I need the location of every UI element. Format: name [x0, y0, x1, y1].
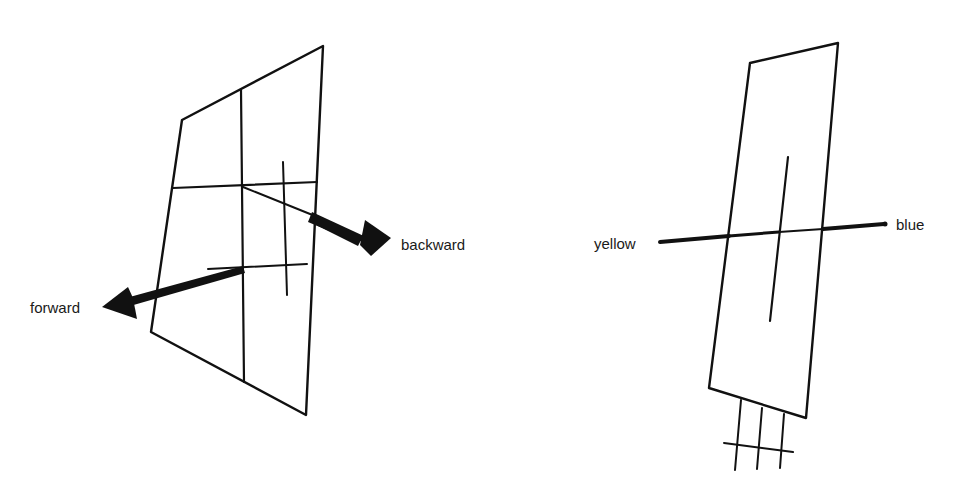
backward-arrow-shaft-thin: [243, 187, 315, 216]
yellow-label: yellow: [594, 236, 636, 251]
left-plane-outline: [151, 46, 323, 415]
right-figure: [660, 43, 888, 470]
axis-inner-thin: [779, 229, 823, 232]
axis-inner-thick: [729, 232, 779, 236]
blue-label: blue: [896, 217, 924, 232]
diagram-canvas: [0, 0, 958, 496]
backward-arrow: [308, 212, 391, 256]
left-cross-horizontal: [208, 264, 307, 269]
backward-label: backward: [401, 237, 465, 252]
forward-arrow: [102, 266, 245, 319]
grid-vertical-1: [735, 400, 741, 470]
yellow-axis-segment: [660, 236, 729, 242]
blue-axis-end-dot: [883, 222, 888, 227]
left-cross-vertical: [283, 162, 287, 295]
left-plane-vertical-line: [241, 90, 244, 382]
grid-vertical-2: [757, 408, 762, 469]
forward-label: forward: [30, 300, 80, 315]
forward-arrowhead: [102, 287, 137, 319]
left-figure: [151, 46, 323, 415]
right-plane-outline: [709, 43, 838, 418]
grid-vertical-3: [780, 414, 784, 468]
blue-axis-segment: [823, 224, 884, 229]
right-inner-vertical: [770, 157, 788, 321]
